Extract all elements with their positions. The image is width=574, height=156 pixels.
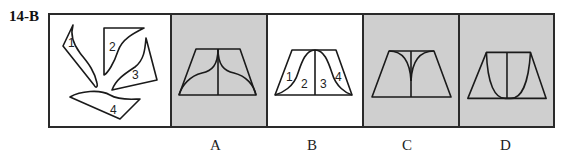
option-c-label[interactable]: C [402, 137, 412, 154]
option-b-drawing: 1 2 3 4 [268, 15, 362, 126]
section-2-label: 2 [301, 77, 308, 91]
pieces-panel: 1 2 3 4 [50, 15, 170, 126]
question-label: 14-B [9, 8, 39, 25]
puzzle-strip: 1 2 3 4 1 2 3 4 [48, 13, 555, 128]
option-d-drawing [460, 15, 553, 126]
section-4-label: 4 [335, 70, 342, 84]
piece-3-shape [112, 38, 157, 90]
option-b-label[interactable]: B [307, 137, 317, 154]
piece-3-label: 3 [132, 68, 139, 82]
puzzle-pieces-drawing: 1 2 3 4 [50, 15, 170, 126]
option-a-label[interactable]: A [210, 137, 221, 154]
piece-4-label: 4 [110, 103, 117, 117]
piece-1-label: 1 [68, 36, 75, 50]
piece-4-shape [70, 91, 140, 119]
piece-2-label: 2 [109, 40, 116, 54]
section-1-label: 1 [286, 70, 293, 84]
option-b-panel[interactable]: 1 2 3 4 [266, 15, 362, 126]
option-c-panel[interactable] [362, 15, 458, 126]
option-a-drawing [172, 15, 266, 126]
option-a-panel[interactable] [170, 15, 266, 126]
option-d-label[interactable]: D [500, 137, 511, 154]
option-c-drawing [364, 15, 458, 126]
section-3-label: 3 [320, 77, 327, 91]
option-d-panel[interactable] [458, 15, 553, 126]
piece-1-shape [63, 25, 97, 87]
